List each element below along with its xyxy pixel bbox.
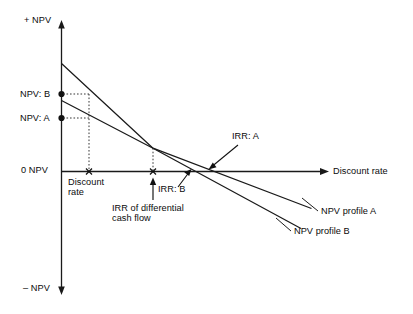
y-axis-top-arrow bbox=[58, 20, 65, 29]
irr-b-annotation-label: IRR: B bbox=[158, 184, 185, 195]
y-axis-bottom-label: – NPV bbox=[23, 283, 50, 294]
y-axis-bottom-arrow bbox=[58, 287, 65, 296]
x-axis-right-arrow bbox=[320, 168, 329, 175]
leader-npv-profile-a bbox=[302, 198, 318, 211]
series-label-npv-profile-a: NPV profile A bbox=[321, 206, 376, 217]
y-axis-zero-label: 0 NPV bbox=[21, 165, 48, 176]
chart-canvas bbox=[0, 0, 413, 314]
npv-profile-chart: + NPV NPV: B NPV: A 0 NPV – NPV Discount… bbox=[0, 0, 413, 314]
y-axis-top-label: + NPV bbox=[24, 15, 51, 26]
irr-differential-label-line2: cash flow bbox=[112, 213, 151, 224]
npv-b-label: NPV: B bbox=[20, 89, 50, 100]
irr-differential-label-line1: IRR of differential bbox=[112, 203, 184, 214]
series-label-npv-profile-b: NPV profile B bbox=[294, 226, 350, 237]
irr-differential-pointer bbox=[150, 178, 156, 201]
discount-rate-marker-label-line2: rate bbox=[68, 187, 84, 198]
series-line-npv-profile-a bbox=[62, 101, 312, 209]
guide-lines bbox=[63, 94, 153, 170]
y-axis bbox=[58, 20, 65, 295]
npv-a-label: NPV: A bbox=[20, 113, 50, 124]
irr-a-annotation-label: IRR: A bbox=[232, 131, 259, 142]
irr-a-pointer bbox=[209, 145, 239, 170]
x-axis-label: Discount rate bbox=[333, 166, 388, 177]
discount-rate-marker-label-line1: Discount bbox=[68, 177, 104, 188]
leader-npv-profile-b bbox=[276, 218, 291, 231]
